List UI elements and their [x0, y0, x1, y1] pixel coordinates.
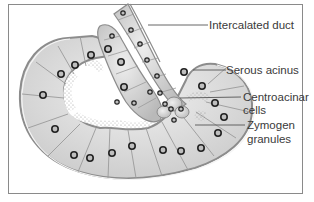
label-centroacinar-line2: cells: [243, 104, 266, 116]
label-intercalated-duct: Intercalated duct: [209, 19, 294, 31]
label-centroacinar-line1: Centroacinar: [243, 91, 309, 103]
label-serous-acinus: Serous acinus: [226, 64, 299, 76]
label-zymogen-line1: Zymogen: [247, 119, 295, 131]
label-zymogen-line2: granules: [247, 133, 291, 145]
